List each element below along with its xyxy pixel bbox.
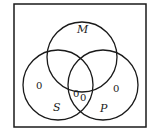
value-s-only: 0 bbox=[36, 80, 42, 91]
value-s-and-p-b: 0 bbox=[80, 92, 86, 103]
label-s: S bbox=[53, 101, 61, 114]
label-p: P bbox=[99, 102, 108, 115]
value-s-and-p-a: 0 bbox=[73, 88, 79, 99]
venn-diagram: M S P 0 0 0 0 bbox=[0, 0, 155, 134]
venn-svg: M S P 0 0 0 0 bbox=[0, 0, 155, 134]
label-m: M bbox=[76, 23, 89, 36]
value-p-only: 0 bbox=[113, 83, 119, 94]
